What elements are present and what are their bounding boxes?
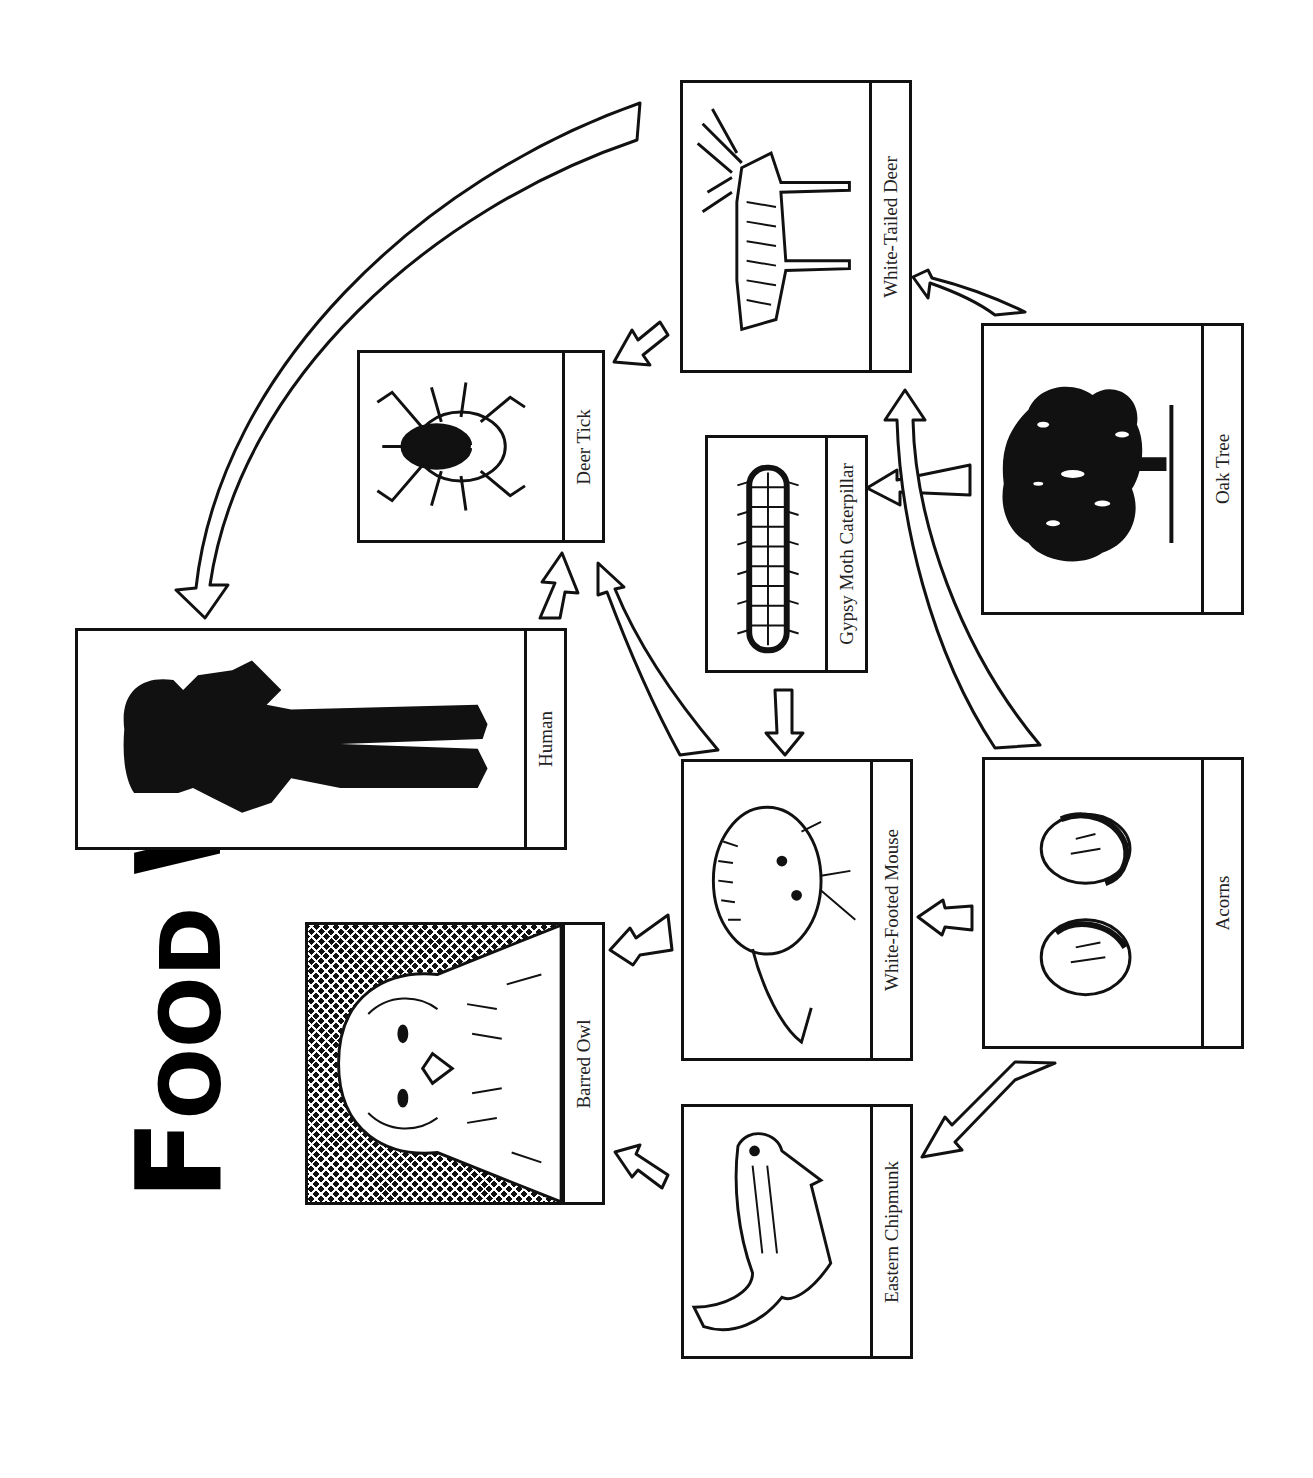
organism-card-white-footed-mouse: White-Footed Mouse [681,759,913,1061]
arrow-mouse-to-tick-1 [540,553,578,618]
organism-label-strip: White-Tailed Deer [869,83,909,370]
organism-label-strip: Oak Tree [1201,326,1241,612]
organism-label-strip: White-Footed Mouse [870,762,910,1058]
title-letter: F [110,1119,248,1200]
organism-label-strip: Gypsy Moth Caterpillar [825,438,865,670]
organism-label-strip: Deer Tick [562,353,602,540]
arrow-caterpillar-to-mouse [766,690,803,755]
organism-label: Acorns [1212,876,1234,931]
organism-label-strip: Human [524,631,564,847]
organism-card-gypsy-moth-caterpillar: Gypsy Moth Caterpillar [705,435,868,673]
chipmunk-icon [684,1107,870,1356]
owl-icon [308,925,562,1202]
arrow-mouse-to-owl [610,915,672,965]
arrow-acorns-to-chipmunk [922,1062,1055,1157]
organism-card-white-tailed-deer: White-Tailed Deer [680,80,912,373]
mouse-icon [684,762,870,1058]
acorns-icon [985,760,1201,1046]
human-silhouette-icon [78,631,524,847]
organism-label: Human [535,711,557,767]
organism-label: Gypsy Moth Caterpillar [836,463,858,645]
arrow-oak-to-caterpillar [867,465,970,505]
tick-icon [360,353,562,540]
oak-tree-icon [984,326,1201,612]
organism-label: White-Footed Mouse [881,829,903,991]
organism-card-eastern-chipmunk: Eastern Chipmunk [681,1104,913,1359]
organism-label: White-Tailed Deer [880,156,902,298]
organism-label: Deer Tick [573,409,595,484]
deer-icon [683,83,869,370]
organism-label-strip: Acorns [1201,760,1241,1046]
organism-card-human: Human [75,628,567,850]
title-letters: OOD [142,907,240,1120]
arrow-acorns-to-mouse [918,900,972,935]
organism-card-acorns: Acorns [982,757,1244,1049]
organism-label: Oak Tree [1212,434,1234,504]
organism-label: Barred Owl [573,1019,595,1108]
arrow-mouse-to-tick-2 [598,563,718,755]
organism-label: Eastern Chipmunk [881,1161,903,1303]
arrow-deer-to-tick [614,322,668,365]
organism-card-oak-tree: Oak Tree [981,323,1244,615]
caterpillar-icon [708,438,825,670]
organism-card-deer-tick: Deer Tick [357,350,605,543]
organism-label-strip: Eastern Chipmunk [870,1107,910,1356]
organism-label-strip: Barred Owl [562,925,602,1202]
arrow-oak-to-deer [913,270,1025,315]
arrow-chipmunk-to-owl [615,1145,668,1188]
organism-card-barred-owl: Barred Owl [305,922,605,1205]
